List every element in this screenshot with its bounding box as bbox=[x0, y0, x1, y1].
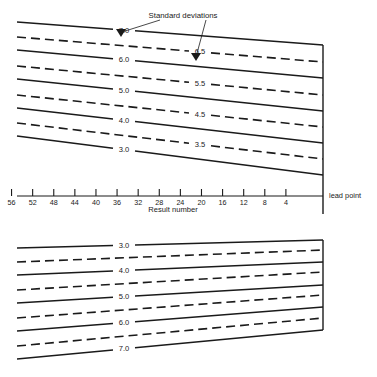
series-label-upper-4.5: 4.5 bbox=[195, 110, 206, 119]
lower-panel-lines bbox=[17, 240, 323, 359]
series-label-lower-6.0: 6.0 bbox=[119, 318, 130, 327]
series-line-lower-5.0-a bbox=[17, 297, 113, 303]
series-label-lower-3.0: 3.0 bbox=[119, 241, 130, 250]
series-line-upper-5.5-a bbox=[17, 66, 189, 82]
series-line-upper-3.5-a bbox=[17, 123, 189, 143]
axis-tick-label-40: 40 bbox=[92, 198, 100, 207]
series-line-upper-5.0-b bbox=[135, 91, 323, 111]
series-line-lower-3.0-a bbox=[17, 245, 113, 248]
lead-point-label: lead point bbox=[329, 191, 361, 200]
axis-tick-label-12: 12 bbox=[240, 198, 248, 207]
series-line-lower-4.0-a bbox=[17, 271, 113, 275]
nomogram-figure: 7.06.56.05.55.04.54.03.53.0 Standard dev… bbox=[0, 0, 377, 377]
series-line-upper-3.0-a bbox=[17, 136, 113, 148]
axis-tick-label-32: 32 bbox=[134, 198, 142, 207]
series-line-upper-5.5-b bbox=[211, 84, 323, 95]
axis-title: Result number bbox=[148, 205, 198, 214]
series-line-upper-6.0-a bbox=[17, 50, 113, 59]
series-line-upper-6.5-a bbox=[17, 37, 189, 51]
series-label-upper-5.5: 5.5 bbox=[195, 79, 206, 88]
series-line-upper-4.5-b bbox=[211, 115, 323, 127]
axis-tick-label-56: 56 bbox=[8, 198, 16, 207]
upper-panel-line-labels: 7.06.56.05.55.04.54.03.53.0 bbox=[119, 26, 206, 155]
nomogram-svg: 7.06.56.05.55.04.54.03.53.0 Standard dev… bbox=[0, 0, 377, 377]
series-line-upper-6.5-b bbox=[211, 53, 323, 62]
axis-tick-label-48: 48 bbox=[50, 198, 58, 207]
upper-panel: 7.06.56.05.55.04.54.03.53.0 bbox=[17, 22, 323, 176]
series-label-upper-4.0: 4.0 bbox=[119, 116, 130, 125]
upper-panel-lines bbox=[17, 22, 323, 175]
series-line-lower-5.0-b bbox=[135, 285, 323, 296]
series-label-upper-5.0: 5.0 bbox=[119, 86, 130, 95]
series-line-lower-7.0-a bbox=[17, 350, 113, 359]
series-line-upper-6.0-b bbox=[135, 61, 323, 78]
axis-tick-label-20: 20 bbox=[197, 198, 205, 207]
series-label-lower-5.0: 5.0 bbox=[119, 292, 130, 301]
series-line-upper-3.5-b bbox=[211, 146, 323, 159]
series-line-upper-7.0-b bbox=[135, 31, 323, 45]
series-label-upper-3.5: 3.5 bbox=[195, 140, 206, 149]
lower-panel: 3.04.05.06.07.0 bbox=[17, 240, 323, 359]
series-label-lower-4.0: 4.0 bbox=[119, 266, 130, 275]
axis-tick-label-44: 44 bbox=[71, 198, 79, 207]
series-line-lower-6.0-b bbox=[135, 307, 323, 322]
series-line-upper-3.0-b bbox=[135, 151, 323, 175]
series-line-upper-4.0-a bbox=[17, 108, 113, 119]
series-line-lower-6.5 bbox=[17, 318, 323, 346]
series-line-lower-3.5 bbox=[17, 250, 323, 262]
series-line-lower-4.0-b bbox=[135, 262, 323, 270]
axis-tick-label-16: 16 bbox=[219, 198, 227, 207]
result-number-axis: 56524844403632282420161284 Result number… bbox=[8, 176, 362, 214]
series-line-upper-5.0-a bbox=[17, 79, 113, 89]
series-label-upper-3.0: 3.0 bbox=[119, 145, 130, 154]
series-line-lower-3.0-b bbox=[135, 240, 323, 245]
axis-tick-label-4: 4 bbox=[284, 198, 288, 207]
axis-tick-label-52: 52 bbox=[29, 198, 37, 207]
annotation-arrowhead-right bbox=[191, 53, 201, 61]
series-line-upper-7.0-a bbox=[17, 22, 113, 29]
series-label-lower-7.0: 7.0 bbox=[119, 344, 130, 353]
axis-tick-label-36: 36 bbox=[113, 198, 121, 207]
series-line-lower-5.5 bbox=[17, 295, 323, 318]
series-line-lower-6.0-a bbox=[17, 323, 113, 331]
standard-deviations-label: Standard deviations bbox=[149, 11, 218, 20]
axis-ticks bbox=[12, 189, 286, 196]
series-label-upper-6.0: 6.0 bbox=[119, 55, 130, 64]
axis-tick-label-8: 8 bbox=[263, 198, 267, 207]
